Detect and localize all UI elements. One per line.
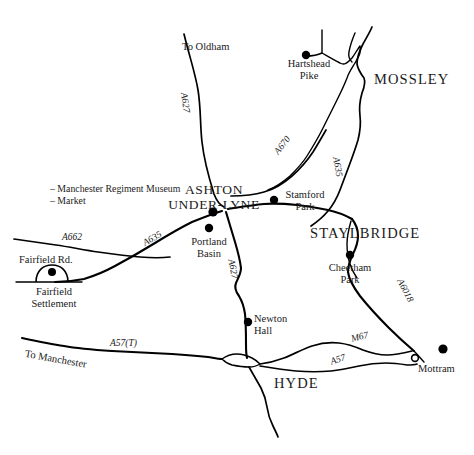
destination-label-to-oldham: To Oldham xyxy=(182,41,229,53)
place-label-newton-hall: Newton Hall xyxy=(254,313,298,337)
place-label-fairfield-settlement-line1: Fairfield xyxy=(23,286,85,298)
place-label-cheetham-park: Cheetham Park xyxy=(324,262,376,286)
place-label-fairfield-settlement-line2: Settlement xyxy=(23,298,85,310)
place-label-fairfield-settlement: Fairfield Settlement xyxy=(23,286,85,310)
place-label-hartshead-pike-line1: Hartshead xyxy=(281,58,337,70)
junction-mottram-interchange xyxy=(412,355,419,362)
town-label-hyde: HYDE xyxy=(274,375,319,391)
town-label-ashton-line1: ASHTON xyxy=(166,182,262,197)
place-label-mottram: Mottram xyxy=(418,363,455,375)
street-label-fairfield-rd: Fairfield Rd. xyxy=(19,254,73,266)
town-label-ashton-line2: UNDER-LYNE xyxy=(166,197,262,212)
annotation-manchester-regiment-museum: – Manchester Regiment Museum xyxy=(50,184,180,195)
town-label-staylbridge: STAYLBRIDGE xyxy=(310,225,420,241)
map-canvas: ASHTON UNDER-LYNE MOSSLEY STAYLBRIDGE HY… xyxy=(0,0,474,455)
dot-fairfield-settlement xyxy=(48,268,56,276)
dot-cheetham-park xyxy=(346,251,354,259)
town-label-mossley: MOSSLEY xyxy=(374,71,449,87)
place-label-stamford-park-line1: Stamford xyxy=(281,189,329,201)
dot-mottram xyxy=(438,344,447,353)
place-label-newton-hall-line2: Hall xyxy=(254,325,298,337)
dot-stamford-park xyxy=(270,196,278,204)
place-label-portland-basin-line1: Portland xyxy=(184,236,234,248)
place-label-newton-hall-line1: Newton xyxy=(254,313,298,325)
place-label-portland-basin-line2: Basin xyxy=(184,248,234,260)
place-label-cheetham-park-line1: Cheetham xyxy=(324,262,376,274)
town-label-ashton: ASHTON UNDER-LYNE xyxy=(166,182,262,212)
road-a627-south xyxy=(226,212,247,358)
place-label-hartshead-pike: Hartshead Pike xyxy=(281,58,337,82)
place-label-cheetham-park-line2: Park xyxy=(324,274,376,286)
annotation-market: – Market xyxy=(50,196,86,207)
place-label-portland-basin: Portland Basin xyxy=(184,236,234,260)
place-label-stamford-park: Stamford Park xyxy=(281,189,329,213)
road-hyde-junction xyxy=(222,354,260,367)
place-label-stamford-park-line2: Park xyxy=(281,201,329,213)
dot-newton-hall xyxy=(244,318,252,326)
road-label-a57t: A57(T) xyxy=(110,338,137,349)
dot-portland-basin xyxy=(205,224,213,232)
road-label-a662: A662 xyxy=(62,232,82,243)
place-label-hartshead-pike-line2: Pike xyxy=(281,70,337,82)
